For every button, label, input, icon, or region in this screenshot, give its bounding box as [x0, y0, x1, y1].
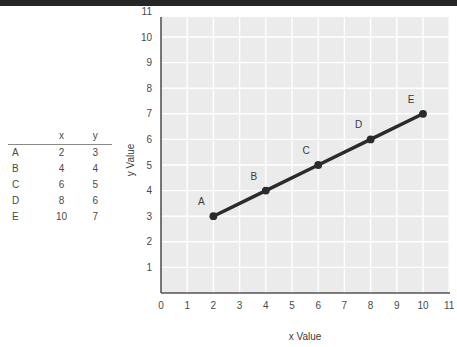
x-tick-label: 3 [237, 300, 243, 311]
data-point-marker [367, 136, 375, 144]
x-tick-label: 9 [394, 300, 400, 311]
x-tick-label: 6 [315, 300, 321, 311]
y-axis-title: y Value [125, 143, 136, 176]
data-point-marker [314, 161, 322, 169]
y-tick-label: 9 [146, 57, 152, 68]
y-tick-label: 6 [146, 134, 152, 145]
data-point-label: D [355, 119, 362, 130]
x-axis-title: x Value [289, 331, 322, 342]
y-tick-label: 10 [141, 32, 153, 43]
x-tick-label: 2 [211, 300, 217, 311]
data-point-marker [262, 187, 270, 195]
y-tick-label: 1 [146, 262, 152, 273]
y-tick-label: 2 [146, 236, 152, 247]
x-tick-label: 10 [417, 300, 429, 311]
y-tick-labels: 1234567891011 [141, 6, 153, 273]
y-tick-label: 8 [146, 83, 152, 94]
data-point-label: B [250, 171, 257, 182]
data-point-label: C [303, 145, 310, 156]
y-tick-label: 3 [146, 211, 152, 222]
y-tick-label: 5 [146, 160, 152, 171]
y-tick-label: 7 [146, 108, 152, 119]
x-tick-label: 11 [444, 300, 455, 311]
data-point-label: E [408, 94, 415, 105]
data-point-marker [419, 110, 427, 118]
x-tick-label: 1 [184, 300, 190, 311]
y-tick-label: 11 [142, 6, 153, 17]
x-tick-label: 5 [289, 300, 295, 311]
y-tick-label: 4 [146, 185, 152, 196]
x-tick-label: 8 [368, 300, 374, 311]
chart-svg: 01234567891011 1234567891011 ABCDE x Val… [0, 0, 457, 347]
x-tick-label: 0 [158, 300, 164, 311]
data-point-marker [210, 212, 218, 220]
x-tick-label: 7 [342, 300, 348, 311]
data-point-label: A [198, 196, 205, 207]
x-tick-label: 4 [263, 300, 269, 311]
scatter-line-chart: 01234567891011 1234567891011 ABCDE x Val… [0, 0, 457, 347]
x-tick-labels: 01234567891011 [158, 300, 455, 311]
